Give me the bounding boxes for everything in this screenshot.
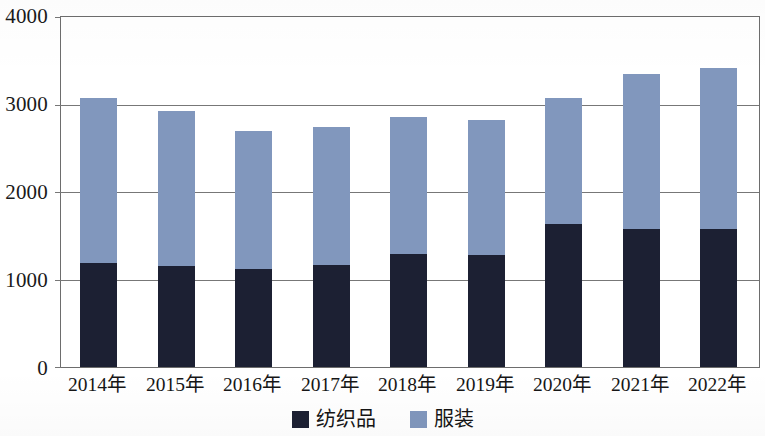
bar-segment-textiles-2016年[interactable] [235,269,272,367]
bar-segment-apparel-2017年[interactable] [313,127,350,265]
bar-segment-apparel-2021年[interactable] [623,74,660,229]
bar-group-2016年[interactable] [235,131,272,367]
y-tick-label-1000: 1000 [0,270,48,291]
bar-segment-apparel-2018年[interactable] [390,117,427,254]
legend-item-textiles: 纺织品 [292,409,376,429]
bar-group-2019年[interactable] [468,120,505,367]
bar-segment-textiles-2015年[interactable] [158,266,195,368]
bar-segment-apparel-2014年[interactable] [80,98,117,263]
bar-group-2018年[interactable] [390,117,427,367]
stacked-bar-chart: 4000 3000 2000 1000 0 2014年2015年2016年201… [0,0,765,436]
chart-legend: 纺织品 服装 [0,409,765,429]
x-tick-label-2022年: 2022年 [673,375,763,395]
bar-segment-textiles-2018年[interactable] [390,254,427,367]
bar-group-2022年[interactable] [700,68,737,367]
legend-label-textiles: 纺织品 [316,409,376,429]
y-tick-1000 [55,280,61,281]
bar-group-2014年[interactable] [80,98,117,367]
legend-item-apparel: 服装 [410,409,474,429]
bar-segment-apparel-2022年[interactable] [700,68,737,229]
bar-group-2017年[interactable] [313,127,350,367]
y-tick-3000 [55,105,61,106]
y-tick-0 [55,367,61,368]
y-tick-label-3000: 3000 [0,94,48,115]
bar-segment-textiles-2021年[interactable] [623,229,660,367]
bar-segment-apparel-2016年[interactable] [235,131,272,268]
y-tick-2000 [55,192,61,193]
bar-segment-apparel-2015年[interactable] [158,111,195,266]
bar-segment-apparel-2019年[interactable] [468,120,505,254]
y-tick-label-4000: 4000 [0,6,48,27]
y-tick-4000 [55,17,61,18]
bar-segment-textiles-2017年[interactable] [313,265,350,367]
legend-label-apparel: 服装 [434,409,474,429]
legend-swatch-apparel [410,411,427,428]
bar-group-2021年[interactable] [623,74,660,367]
bar-segment-textiles-2019年[interactable] [468,255,505,367]
bar-segment-textiles-2014年[interactable] [80,263,117,367]
bar-segment-textiles-2020年[interactable] [545,224,582,368]
x-tick-label-2018年: 2018年 [363,375,453,395]
x-tick-label-2016年: 2016年 [208,375,298,395]
y-tick-label-0: 0 [0,358,48,379]
x-tick-label-2014年: 2014年 [53,375,143,395]
bar-group-2015年[interactable] [158,111,195,367]
y-tick-label-2000: 2000 [0,182,48,203]
legend-swatch-textiles [292,411,309,428]
bar-segment-apparel-2020年[interactable] [545,98,582,223]
plot-area [60,16,760,368]
x-tick-label-2020年: 2020年 [518,375,608,395]
bar-group-2020年[interactable] [545,98,582,367]
bar-segment-textiles-2022年[interactable] [700,229,737,367]
